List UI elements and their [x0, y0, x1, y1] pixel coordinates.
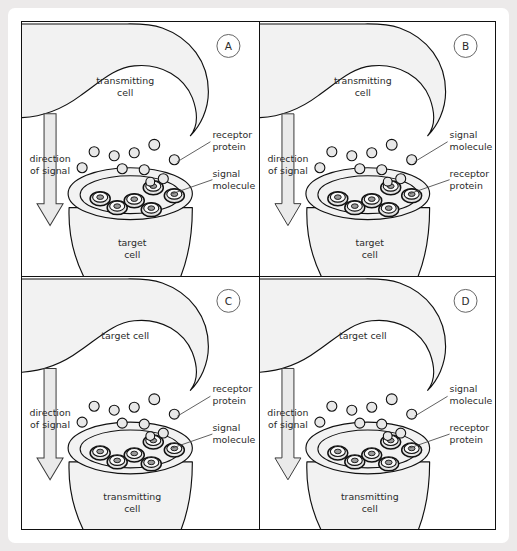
- signal-molecule: [109, 405, 119, 415]
- signal-molecule: [169, 155, 179, 165]
- signal-molecule: [395, 174, 405, 184]
- panel-letter-badge: C: [217, 289, 240, 312]
- panel-c[interactable]: C target cell transmitting cell directio…: [22, 276, 259, 530]
- bottom-side-label-line2: protein: [449, 434, 482, 445]
- top-side-label-line2: protein: [212, 141, 245, 152]
- top-side-label-line2: molecule: [449, 141, 492, 152]
- signal-molecule: [395, 428, 405, 438]
- bottom-side-label-line1: receptor: [449, 168, 489, 179]
- signal-molecule: [109, 151, 119, 161]
- panel-b[interactable]: B transmitting cell target cell directio…: [259, 22, 496, 276]
- signal-molecule: [326, 147, 336, 157]
- signal-molecule: [346, 151, 356, 161]
- signal-molecule: [383, 431, 392, 440]
- direction-label-line1: direction: [267, 153, 308, 164]
- top-side-label-line1: receptor: [212, 383, 252, 394]
- leader-line-top-label: [177, 396, 210, 416]
- signal-molecule: [158, 428, 168, 438]
- direction-label-line1: direction: [29, 407, 70, 418]
- signal-molecule: [354, 418, 364, 428]
- direction-label-line2: of signal: [30, 419, 70, 430]
- receptor: [361, 194, 381, 208]
- upper-cell-label-line1: target cell: [338, 329, 386, 340]
- signal-molecule: [77, 417, 87, 427]
- signal-molecule: [129, 402, 139, 412]
- top-side-label-line1: signal: [449, 383, 477, 394]
- signal-molecule: [326, 401, 336, 411]
- panel-c-illustration: C target cell transmitting cell directio…: [22, 277, 259, 530]
- signal-molecule: [366, 402, 376, 412]
- signal-molecule: [376, 419, 386, 429]
- signal-molecule: [354, 164, 364, 174]
- signal-molecule: [139, 165, 149, 175]
- signal-molecule: [146, 431, 155, 440]
- top-side-label-line1: signal: [449, 129, 477, 140]
- upper-cell-label-line1: target cell: [101, 329, 149, 340]
- figure-card: A transmitting cell target cell directio…: [8, 8, 509, 543]
- signal-molecule: [77, 163, 87, 173]
- panel-letter-badge: B: [454, 34, 477, 57]
- lower-cell-label-line2: cell: [124, 249, 140, 260]
- signal-molecule: [366, 148, 376, 158]
- signal-molecule: [89, 401, 99, 411]
- signal-molecule: [314, 417, 324, 427]
- bottom-side-label-line1: signal: [212, 168, 240, 179]
- bottom-side-label-line2: molecule: [212, 180, 255, 191]
- direction-label-line1: direction: [267, 407, 308, 418]
- signal-molecule: [314, 163, 324, 173]
- signal-molecule: [386, 393, 397, 404]
- signal-molecule: [149, 139, 160, 150]
- signal-molecule: [149, 393, 160, 404]
- receptor: [124, 447, 144, 461]
- top-side-label-line1: receptor: [212, 129, 252, 140]
- top-side-label-line2: molecule: [449, 395, 492, 406]
- signal-molecule: [89, 147, 99, 157]
- upper-cell-label-line2: cell: [117, 87, 133, 98]
- signal-molecule: [158, 174, 168, 184]
- signal-molecule: [139, 419, 149, 429]
- signal-molecule: [169, 409, 179, 419]
- direction-label-line2: of signal: [30, 165, 70, 176]
- panel-grid: A transmitting cell target cell directio…: [21, 21, 496, 530]
- signal-molecule: [346, 405, 356, 415]
- receptor: [327, 445, 347, 459]
- panel-d[interactable]: D target cell transmitting cell directio…: [259, 276, 496, 530]
- receptor: [124, 194, 144, 208]
- signal-molecule: [129, 148, 139, 158]
- receptor: [327, 192, 347, 206]
- lower-cell-label-line2: cell: [361, 502, 377, 513]
- panel-b-illustration: B transmitting cell target cell directio…: [260, 22, 496, 276]
- lower-cell-label-line1: target: [355, 237, 384, 248]
- direction-label-line2: of signal: [268, 419, 308, 430]
- bottom-side-label-line2: protein: [449, 180, 482, 191]
- panel-letter-text: A: [225, 40, 233, 52]
- upper-cell-label-line1: transmitting: [333, 75, 391, 86]
- direction-label-line1: direction: [29, 153, 70, 164]
- receptor: [141, 456, 161, 470]
- panel-letter-badge: D: [454, 289, 477, 312]
- direction-label-line2: of signal: [268, 165, 308, 176]
- leader-line-top-label: [177, 142, 210, 162]
- receptor: [378, 456, 398, 470]
- bottom-side-label-line2: molecule: [212, 434, 255, 445]
- receptor: [378, 203, 398, 217]
- lower-cell-label-line1: transmitting: [103, 490, 161, 501]
- lower-cell-label-line1: transmitting: [340, 490, 398, 501]
- bottom-side-label-line1: receptor: [449, 422, 489, 433]
- signal-molecule: [117, 164, 127, 174]
- signal-molecule: [386, 139, 397, 150]
- upper-cell-label-line1: transmitting: [96, 75, 154, 86]
- panel-a[interactable]: A transmitting cell target cell directio…: [22, 22, 259, 276]
- panel-letter-badge: A: [217, 34, 240, 57]
- receptor: [141, 203, 161, 217]
- leader-line-top-label: [414, 396, 447, 416]
- receptor: [90, 192, 110, 206]
- panel-letter-text: D: [461, 294, 469, 306]
- receptor: [361, 447, 381, 461]
- upper-cell-label-line2: cell: [354, 87, 370, 98]
- leader-line-top-label: [414, 142, 447, 162]
- top-side-label-line2: protein: [212, 395, 246, 406]
- signal-molecule: [383, 177, 392, 186]
- panel-letter-text: C: [225, 294, 232, 306]
- signal-molecule: [406, 409, 416, 419]
